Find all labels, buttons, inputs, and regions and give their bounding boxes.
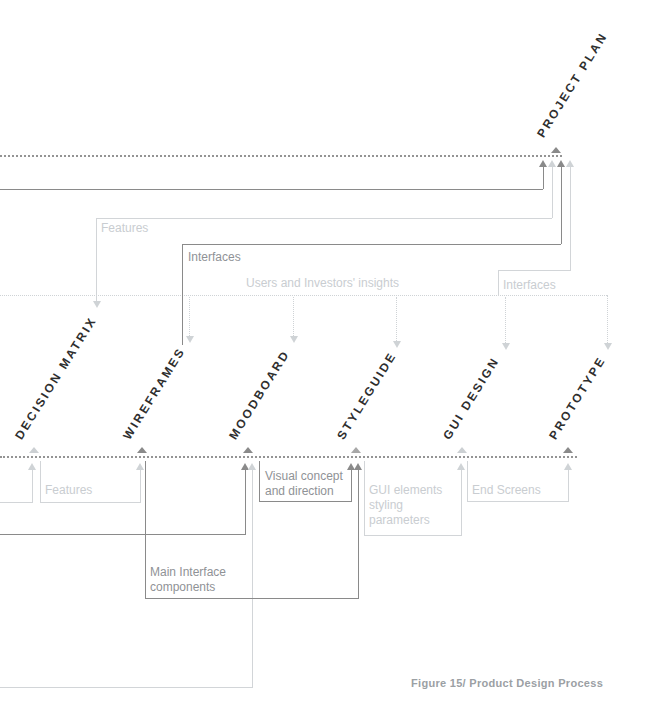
insights-drop-moodboard [293,297,294,336]
edge-end-screens-h [467,501,569,502]
node-prototype: PROTOTYPE [546,354,608,442]
edge-main-interface-arrow [354,463,362,470]
edge-margin-low-to-moodboard-arrow [248,463,256,470]
label-end-screens: End Screens [472,483,541,498]
edge-features-bottom-h [40,502,141,503]
edge-interfaces-left-v-dst [561,167,562,244]
label-interfaces-left: Interfaces [188,250,241,265]
moodboard-marker [243,447,253,453]
edge-features-top-arrow-down [93,301,101,308]
edge-interfaces-left-v-src [182,244,183,345]
edge-gui-elements-v-src [364,461,365,535]
insights-drop-wireframes [189,297,190,336]
timeline-top-dotted-line [0,155,562,157]
edge-features-top-h [96,218,552,219]
node-moodboard: MOODBOARD [226,347,292,442]
edge-gui-elements-v-dst [461,470,462,535]
node-project-plan: PROJECT PLAN [534,30,610,140]
node-wireframes: WIREFRAMES [120,345,188,442]
edge-margin-to-projectplan-v [543,167,544,189]
insights-drop-wireframes-arrow [186,336,194,343]
edge-features-top-v-right [552,167,553,218]
label-gui-elements: GUI elements styling parameters [369,483,453,528]
edge-interfaces-right-v-src [498,270,499,296]
edge-interfaces-left-h [182,244,561,245]
gui-design-marker [457,447,467,453]
insights-drop-prototype [607,295,608,343]
node-decision-matrix: DECISION MATRIX [12,314,99,442]
label-main-interface: Main Interface components [150,565,262,595]
label-features-bottom: Features [45,483,92,498]
edge-interfaces-left-arrow [557,160,565,167]
edge-visual-concept-h [259,501,352,502]
edge-margin-low-to-moodboard-h [0,687,253,688]
edge-gui-elements-h [364,535,462,536]
edge-end-screens-v-dst [568,470,569,501]
insights-dotted-line [0,295,607,296]
label-visual-concept: Visual concept and direction [265,469,353,499]
insights-drop-styleguide-arrow [393,341,401,348]
edge-features-bottom-v-dst [140,470,141,502]
styleguide-marker [351,447,361,453]
label-users-insights: Users and Investors' insights [246,276,399,291]
edge-main-interface-v-dst [358,470,359,598]
wireframes-marker [137,447,147,453]
insights-drop-styleguide [396,297,397,341]
label-features-top: Features [101,221,148,236]
insights-drop-prototype-arrow [604,343,612,350]
edge-interfaces-right-h [498,270,571,271]
edge-interfaces-right-v-dst [570,167,571,271]
label-interfaces-right: Interfaces [503,278,556,293]
edge-features-top-v-left [96,218,97,301]
edge-interfaces-right-arrow [566,160,574,167]
insights-drop-gui-design-arrow [502,343,510,350]
edge-gui-elements-arrow [457,463,465,470]
insights-drop-moodboard-arrow [290,336,298,343]
edge-margin-to-projectplan-arrow [539,160,547,167]
figure-caption: Figure 15/ Product Design Process [411,677,603,689]
edge-visual-concept-v-src [259,461,260,501]
edge-end-screens-v-src [467,461,468,501]
edge-features-bottom-arrow [136,463,144,470]
edge-margin-to-moodboard-h [0,534,246,535]
insights-drop-gui-design [505,297,506,343]
edge-main-interface-h [145,598,359,599]
edge-features-top-arrow-up [548,160,556,167]
edge-end-screens-arrow [564,463,572,470]
prototype-marker [563,447,573,453]
project-plan-marker [551,147,561,153]
product-design-process-diagram: PROJECT PLAN DECISION MATRIX WIREFRAMES … [0,0,646,720]
edge-features-bottom-v-src [40,461,41,502]
decision-matrix-marker [29,447,39,453]
edge-main-interface-v-src [145,461,146,598]
edge-margin-to-decision-v [32,470,33,502]
edge-margin-to-projectplan-h [0,189,543,190]
node-gui-design: GUI DESIGN [440,354,502,442]
edge-margin-to-decision-arrow [28,463,36,470]
edge-margin-to-decision-h [0,502,33,503]
node-styleguide: STYLEGUIDE [334,349,399,442]
timeline-bottom-dotted-line [0,456,577,458]
edge-margin-to-moodboard-v [245,470,246,534]
